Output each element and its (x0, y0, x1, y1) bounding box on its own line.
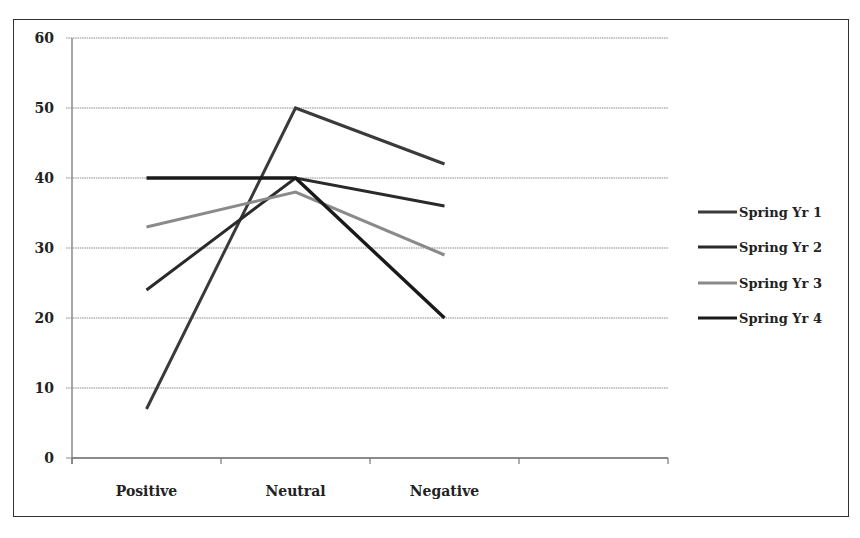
legend-label: Spring Yr 3 (739, 276, 822, 291)
legend-item: Spring Yr 1 (698, 205, 822, 220)
x-axis-ticks: PositiveNeutralNegative (116, 483, 480, 499)
legend-label: Spring Yr 4 (739, 311, 822, 326)
series-line-spring-yr-3 (147, 192, 445, 255)
y-tick-label: 30 (35, 240, 55, 256)
legend-label: Spring Yr 1 (739, 205, 822, 220)
y-tick-label: 60 (35, 30, 55, 46)
legend: Spring Yr 1Spring Yr 2Spring Yr 3Spring … (698, 205, 822, 326)
legend-item: Spring Yr 3 (698, 276, 822, 291)
x-tick-label: Positive (116, 483, 178, 499)
series-line-spring-yr-1 (147, 108, 445, 409)
axes (72, 38, 668, 464)
x-tick-label: Negative (410, 483, 479, 499)
x-tick-label: Neutral (265, 483, 325, 499)
y-tick-label: 40 (35, 170, 55, 186)
y-tick-label: 10 (35, 380, 55, 396)
series-line-spring-yr-2 (147, 178, 445, 290)
line-chart: 0102030405060 PositiveNeutralNegative Sp… (0, 0, 860, 538)
y-axis-ticks: 0102030405060 (35, 30, 55, 466)
y-tick-label: 20 (35, 310, 55, 326)
series-lines (147, 108, 445, 409)
legend-item: Spring Yr 2 (698, 240, 822, 255)
y-tick-label: 0 (44, 450, 54, 466)
gridlines (66, 38, 668, 458)
legend-label: Spring Yr 2 (739, 240, 822, 255)
y-tick-label: 50 (35, 100, 55, 116)
legend-item: Spring Yr 4 (698, 311, 822, 326)
